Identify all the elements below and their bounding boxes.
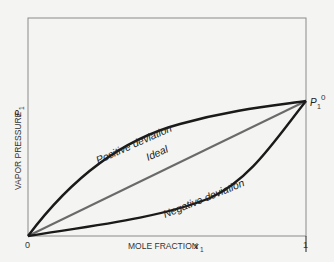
svg-text:MOLE FRACTION: MOLE FRACTION [128, 241, 198, 251]
vapor-pressure-chart: Positive deviation Ideal Negative deviat… [0, 0, 334, 262]
y-axis-label: VAPOR PRESSURE P 1 [13, 106, 25, 190]
svg-text:1: 1 [200, 246, 204, 253]
svg-text:VAPOR PRESSURE: VAPOR PRESSURE [13, 111, 23, 190]
svg-text:1: 1 [18, 106, 25, 110]
svg-text:x: x [193, 241, 199, 251]
svg-text:P: P [310, 97, 317, 108]
endpoint-label: P 1 0 [310, 93, 326, 110]
x-axis-label: MOLE FRACTION x 1 [128, 241, 204, 253]
x-tick-label-0: 0 [25, 240, 30, 250]
ideal-label: Ideal [144, 142, 170, 162]
svg-text:1: 1 [317, 103, 321, 110]
x-tick-label-1: 1 [303, 240, 308, 250]
negative-deviation-label: Negative deviation [161, 176, 246, 220]
svg-text:0: 0 [321, 93, 326, 102]
